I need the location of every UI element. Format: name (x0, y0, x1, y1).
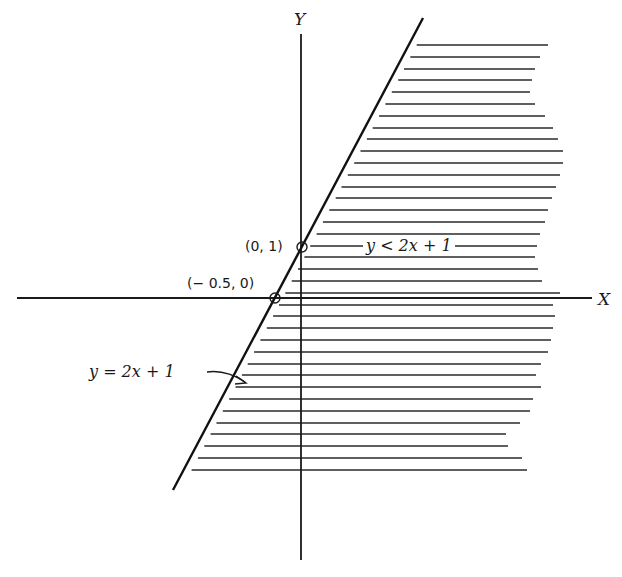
shaded-region-hatching (192, 45, 563, 470)
point-label-neg0.5-0: (− 0.5, 0) (187, 276, 254, 290)
plot-canvas (0, 0, 622, 577)
inequality-graph: Y X (0, 1) (− 0.5, 0) y < 2x + 1 y = 2x … (0, 0, 622, 577)
arrowhead-icon (235, 376, 246, 384)
point-label-0-1: (0, 1) (245, 239, 283, 253)
arrow-icon (207, 372, 245, 382)
y-axis-label: Y (294, 11, 305, 28)
line-equation-label: y = 2x + 1 (86, 364, 178, 380)
inequality-label: y < 2x + 1 (363, 238, 455, 254)
x-axis-label: X (598, 291, 610, 308)
